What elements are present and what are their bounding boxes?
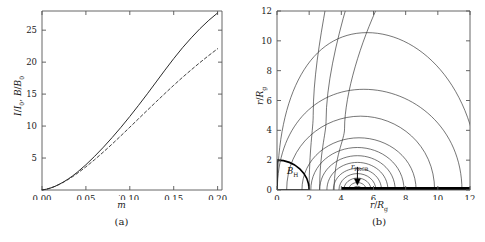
- panel-b-y-tick: 4: [267, 125, 272, 135]
- panel-b: 024681012024681012 r/Rg r/Rg (b) BH rPRC…: [243, 0, 485, 242]
- panel-a-y-tick: 10: [26, 121, 37, 131]
- panel-a: 0.000.050.100.150.20510152025 I/I0, B/B0…: [0, 0, 243, 242]
- panel-b-y-tick: 0: [267, 185, 272, 195]
- panel-b-y-tick: 12: [261, 6, 272, 16]
- panel-b-y-tick: 2: [267, 155, 272, 165]
- panel-a-x-axis-label: ̇m: [0, 200, 243, 210]
- panel-b-y-tick: 6: [267, 96, 272, 106]
- panel-b-x-axis-label: r/Rg: [273, 200, 485, 212]
- panel-a-plot: 0.000.050.100.150.20510152025: [0, 0, 243, 200]
- panel-a-frame: [42, 11, 222, 190]
- horizon-label: BH: [287, 166, 298, 178]
- panel-a-y-tick: 25: [26, 25, 37, 35]
- panel-b-y-tick: 8: [267, 66, 272, 76]
- prcb-marker-label: rPRCB: [351, 163, 368, 172]
- panel-a-curve: [42, 13, 218, 190]
- contour-line-open: [320, 5, 347, 190]
- figure-container: 0.000.050.100.150.20510152025 I/I0, B/B0…: [0, 0, 485, 242]
- contour-line-open: [309, 5, 326, 190]
- panel-b-y-tick: 10: [261, 36, 272, 46]
- panel-b-frame: [277, 11, 470, 190]
- panel-a-caption: (a): [0, 216, 243, 227]
- panel-b-contours: [277, 5, 480, 190]
- panel-b-caption: (b): [273, 216, 485, 227]
- panel-b-y-axis-label: r/Rg: [255, 66, 267, 126]
- panel-a-y-tick: 15: [26, 89, 37, 99]
- panel-a-curve: [42, 49, 218, 190]
- prcb-arrow-head: [354, 179, 360, 185]
- panel-a-y-tick: 20: [26, 57, 37, 67]
- panel-a-y-axis-label: I/I0, B/B0: [13, 59, 25, 133]
- panel-a-y-tick: 5: [32, 153, 37, 163]
